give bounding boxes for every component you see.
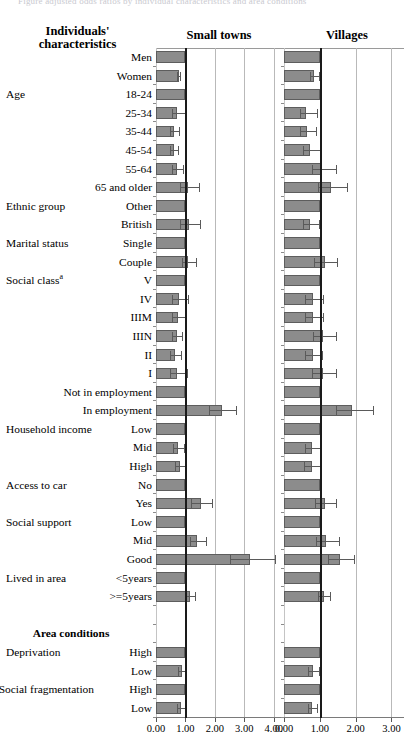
odds-ratio-bar (284, 423, 320, 435)
plot-row-bar (284, 662, 404, 681)
odds-ratio-bar (284, 386, 320, 398)
row-label: Good (0, 550, 156, 569)
plot-row-bar (156, 420, 284, 439)
odds-ratio-bar (284, 647, 320, 659)
row-label: 55-64 (0, 160, 156, 179)
row-level-label: Low (94, 420, 152, 439)
row-spacer (0, 606, 156, 625)
plot-row-bar (284, 643, 404, 662)
plotarea-smalltowns (156, 48, 284, 718)
plot-row-bar (284, 569, 404, 588)
plot-row-bar (284, 197, 404, 216)
plot-row-bar (284, 271, 404, 290)
row-level-label: Mid (94, 438, 152, 457)
odds-ratio-bar (284, 479, 320, 491)
row-group-label: Ethnic group (0, 197, 65, 216)
plot-row-bar (156, 662, 284, 681)
confidence-interval (170, 150, 179, 151)
plot-row-bar (284, 680, 404, 699)
confidence-interval (191, 503, 212, 504)
reference-line (320, 48, 322, 718)
confidence-interval (313, 336, 338, 337)
plot-row-bar (284, 550, 404, 569)
confidence-interval (180, 224, 201, 225)
row-level-label: Low (94, 699, 152, 718)
x-tick-label: 3.00 (235, 723, 253, 734)
plot-row-blank (284, 625, 404, 644)
row-label: 25-34 (0, 104, 156, 123)
plot-row-bar (156, 457, 284, 476)
row-level-label: Yes (94, 494, 152, 513)
plot-row-bar (156, 699, 284, 718)
plot-row-bar (284, 420, 404, 439)
plot-row-bar (156, 48, 284, 67)
row-level-label: Mid (94, 531, 152, 550)
confidence-interval (308, 671, 319, 672)
plot-row-bar (284, 290, 404, 309)
row-label: Social classaV (0, 271, 156, 290)
plot-row-bar (284, 48, 404, 67)
row-level-label: High (94, 643, 152, 662)
plot-row-blank (284, 606, 404, 625)
row-label: Age18-24 (0, 85, 156, 104)
row-label: Men (0, 48, 156, 67)
row-label: Household incomeLow (0, 420, 156, 439)
plot-row-bar (156, 234, 284, 253)
row-level-label: 55-64 (94, 160, 152, 179)
confidence-interval (314, 262, 338, 263)
odds-ratio-bar (156, 386, 185, 398)
plot-row-bar (284, 532, 404, 551)
row-level-label: In employment (83, 401, 152, 420)
confidence-interval (328, 559, 355, 560)
plotarea-villages (284, 48, 404, 718)
row-label: IIIM (0, 308, 156, 327)
plot-row-bar (156, 122, 284, 141)
odds-ratio-bar (156, 572, 185, 584)
plot-row-bar (284, 178, 404, 197)
row-level-label: High (94, 457, 152, 476)
plot-row-bar (156, 215, 284, 234)
row-level-label: IV (94, 290, 152, 309)
confidence-interval (182, 262, 197, 263)
x-tick (156, 718, 157, 722)
confidence-interval (190, 541, 208, 542)
plot-row-blank (156, 606, 284, 625)
x-tick-label: 0.00 (275, 723, 293, 734)
confidence-interval (170, 355, 182, 356)
x-tick (391, 718, 392, 722)
row-label: Ethnic groupOther (0, 197, 156, 216)
odds-ratio-bar (284, 89, 320, 101)
row-level-label: 35-44 (94, 122, 152, 141)
odds-ratio-bar (156, 684, 185, 696)
row-level-label: Low (94, 662, 152, 681)
row-label: Yes (0, 494, 156, 513)
plot-row-blank (156, 625, 284, 644)
plot-row-bar (284, 383, 404, 402)
confidence-interval (230, 559, 276, 560)
plot-row-bar (284, 327, 404, 346)
plot-row-bar (156, 160, 284, 179)
plot-row-bar (284, 494, 404, 513)
plot-row-bar (156, 494, 284, 513)
x-tick-label: 1.00 (176, 723, 194, 734)
row-group-label: Household income (0, 420, 92, 439)
figure-top-caption: Figure adjusted odds ratios by individua… (18, 0, 408, 6)
panel-villages (284, 48, 404, 718)
plot-row-bar (156, 141, 284, 160)
row-label: British (0, 215, 156, 234)
row-label: I (0, 364, 156, 383)
row-level-label: I (94, 364, 152, 383)
confidence-interval (304, 466, 321, 467)
plot-row-bar (156, 290, 284, 309)
odds-ratio-bar (156, 479, 185, 491)
x-tick (274, 718, 275, 722)
row-group-label: Social support (0, 513, 72, 532)
plot-row-bar (284, 234, 404, 253)
row-level-label: IIIM (94, 308, 152, 327)
confidence-interval (303, 224, 319, 225)
row-level-label: V (94, 271, 152, 290)
x-tick-label: 0.00 (147, 723, 165, 734)
row-label: Low (0, 699, 156, 718)
x-tick-label: 2.00 (206, 723, 224, 734)
row-group-label: Age (0, 85, 25, 104)
